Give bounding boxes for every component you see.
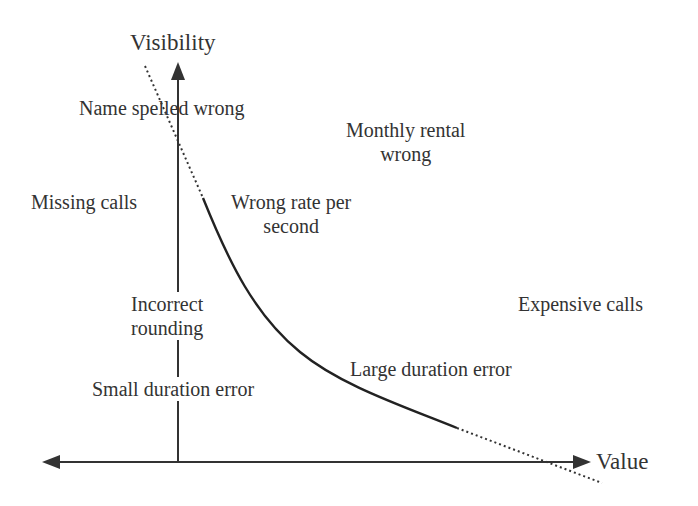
label-monthly-rental-line2: wrong bbox=[346, 142, 465, 166]
label-incorrect-rounding: Incorrect rounding bbox=[128, 292, 206, 340]
label-large-duration-error: Large duration error bbox=[347, 357, 515, 381]
label-expensive-calls: Expensive calls bbox=[515, 292, 646, 316]
label-incorrect-rounding-line1: Incorrect bbox=[131, 292, 203, 316]
label-monthly-rental-line1: Monthly rental bbox=[346, 118, 465, 142]
curve-dotted-lower bbox=[457, 428, 602, 483]
label-name-spelled-wrong: Name spelled wrong bbox=[76, 96, 248, 120]
label-small-duration-error: Small duration error bbox=[89, 377, 257, 401]
y-axis-arrowhead-icon bbox=[171, 62, 185, 80]
label-wrong-rate-line2: second bbox=[231, 214, 351, 238]
x-axis-left-arrowhead-icon bbox=[42, 455, 60, 469]
label-missing-calls: Missing calls bbox=[28, 190, 140, 214]
y-axis-label: Visibility bbox=[130, 30, 216, 56]
diagram-canvas bbox=[0, 0, 698, 506]
label-monthly-rental-wrong: Monthly rental wrong bbox=[343, 118, 468, 166]
label-incorrect-rounding-line2: rounding bbox=[131, 316, 203, 340]
x-axis-right-arrowhead-icon bbox=[573, 455, 591, 469]
curve-dotted-upper bbox=[145, 66, 203, 198]
x-axis-label: Value bbox=[596, 449, 648, 475]
label-wrong-rate-per-second: Wrong rate per second bbox=[228, 190, 354, 238]
label-wrong-rate-line1: Wrong rate per bbox=[231, 190, 351, 214]
